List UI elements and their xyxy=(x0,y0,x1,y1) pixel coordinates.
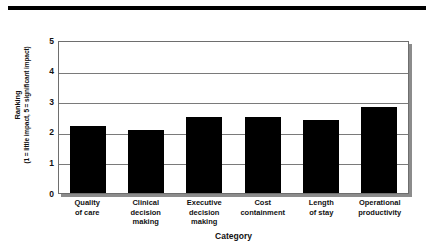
bar-4 xyxy=(303,120,339,193)
y-axis-title: Ranking (1 = little impact, 5 = signific… xyxy=(4,22,40,188)
y-axis-tick-4: 4 xyxy=(40,67,54,76)
bar-0 xyxy=(70,126,106,193)
x-axis-tick-0: Quality of care xyxy=(58,198,116,217)
x-axis-tick-3: Cost containment xyxy=(234,198,292,217)
y-axis-tick-1: 1 xyxy=(40,159,54,168)
bar-1 xyxy=(128,130,164,193)
y-axis-tick-0: 0 xyxy=(40,190,54,199)
top-divider-rule xyxy=(8,6,426,10)
x-axis-title: Category xyxy=(58,231,409,241)
y-axis-tick-labels: 012345 xyxy=(40,27,54,194)
bar-2 xyxy=(186,117,222,194)
bar-3 xyxy=(245,117,281,194)
x-axis-tick-1: Clinical decision making xyxy=(117,198,175,227)
bar-5 xyxy=(361,107,397,193)
bar-series xyxy=(59,42,408,193)
x-axis-tick-4: Length of stay xyxy=(292,198,350,217)
plot-area xyxy=(58,41,409,194)
x-axis-tick-2: Executive decision making xyxy=(175,198,233,227)
x-axis-tick-labels: Quality of careClinical decision makingE… xyxy=(58,198,409,227)
y-axis-tick-3: 3 xyxy=(40,98,54,107)
y-axis-title-subtitle: (1 = little impact, 5 = significant impa… xyxy=(22,46,31,163)
x-axis-tick-5: Operational productivity xyxy=(351,198,409,217)
y-axis-tick-5: 5 xyxy=(40,37,54,46)
y-axis-tick-2: 2 xyxy=(40,128,54,137)
bar-chart-figure: Ranking (1 = little impact, 5 = signific… xyxy=(0,14,434,251)
